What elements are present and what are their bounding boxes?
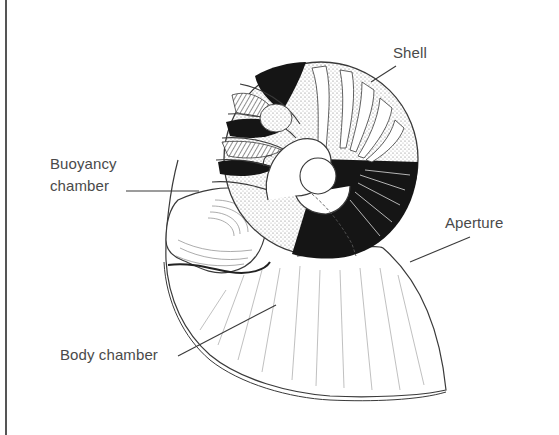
label-body-chamber: Body chamber — [60, 346, 158, 364]
label-shell: Shell — [393, 44, 427, 62]
label-buoyancy-line1: Buoyancy — [50, 155, 117, 173]
shell-leader — [371, 66, 396, 82]
aperture-leader — [410, 237, 470, 262]
label-buoyancy-chamber: Buoyancy chamber — [50, 155, 117, 195]
label-buoyancy-line2: chamber — [50, 177, 117, 195]
label-aperture: Aperture — [445, 214, 503, 232]
